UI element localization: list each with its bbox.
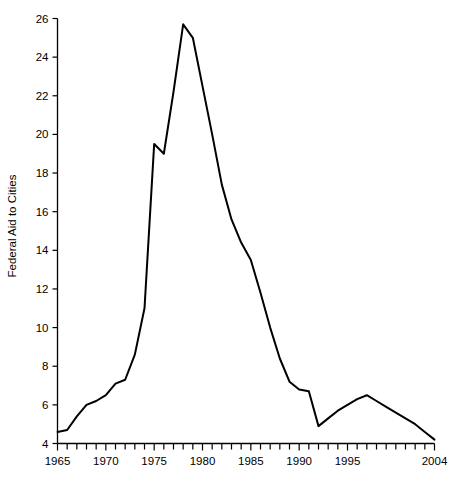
- y-axis-title: Federal Aid to Cities: [6, 174, 18, 277]
- x-tick-label: 1965: [45, 455, 71, 467]
- y-tick-label: 14: [36, 244, 49, 256]
- y-tick-label: 18: [36, 167, 49, 179]
- x-tick-label: 1975: [141, 455, 167, 467]
- y-tick-label: 24: [36, 51, 49, 63]
- x-tick-label: 1995: [335, 455, 361, 467]
- y-tick-label: 6: [42, 399, 48, 411]
- y-tick-label: 26: [36, 13, 49, 25]
- x-tick-label: 2004: [422, 455, 448, 467]
- y-tick-label: 10: [36, 322, 49, 334]
- data-line-series-0: [58, 24, 435, 439]
- x-tick-label: 1980: [190, 455, 216, 467]
- y-tick-label: 16: [36, 206, 49, 218]
- x-tick-label: 1985: [238, 455, 264, 467]
- x-tick-label: 1970: [93, 455, 119, 467]
- chart-container: 4681012141618202224261965197019751980198…: [0, 0, 469, 480]
- y-tick-label: 20: [36, 128, 49, 140]
- line-chart: 4681012141618202224261965197019751980198…: [0, 0, 469, 480]
- y-tick-label: 8: [42, 360, 48, 372]
- y-tick-label: 12: [36, 283, 49, 295]
- x-tick-label: 1990: [286, 455, 312, 467]
- y-tick-label: 4: [42, 438, 49, 450]
- y-tick-label: 22: [36, 90, 49, 102]
